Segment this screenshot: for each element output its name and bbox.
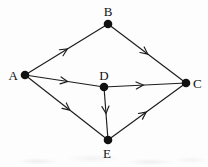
edge-A-D — [25, 75, 104, 87]
node-label-D: D — [99, 68, 108, 83]
node-label-B: B — [104, 4, 113, 19]
node-label-A: A — [9, 68, 19, 83]
edge-D-C — [104, 83, 186, 87]
graph-canvas: ABCDE — [0, 0, 208, 167]
node-B — [104, 20, 113, 29]
edge-A-E — [25, 75, 108, 140]
node-E — [104, 136, 113, 145]
node-label-C: C — [193, 76, 202, 91]
arrowhead-A-B — [59, 49, 67, 56]
graph-figure: ABCDE — [0, 0, 208, 167]
node-A — [21, 71, 30, 80]
node-D — [100, 83, 109, 92]
node-label-E: E — [103, 146, 111, 161]
node-C — [182, 79, 191, 88]
